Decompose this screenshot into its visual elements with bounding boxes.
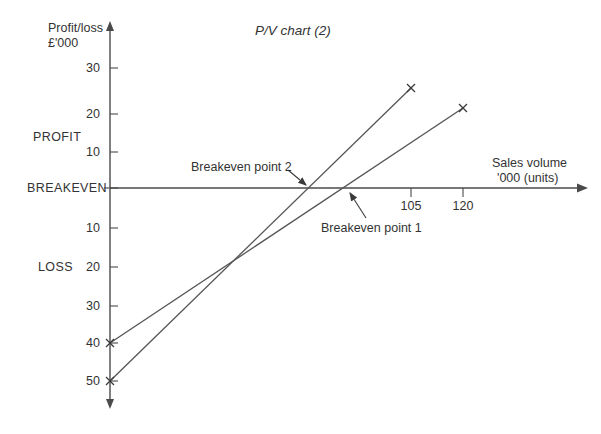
pv-chart-figure: P/V chart (2) Profit/loss £'000 Sales vo… [0, 0, 601, 434]
annotation-leaders [288, 170, 366, 218]
region-label-breakeven: BREAKEVEN [27, 181, 107, 195]
y-tick-label-minus-40: 40 [60, 336, 100, 350]
y-tick-label-10: 10 [60, 145, 100, 159]
y-tick-label-minus-10: 10 [60, 221, 100, 235]
x-axis-title-line2: '000 (units) [497, 171, 558, 185]
y-axis-title-line2: £'000 [48, 36, 78, 50]
y-tick-label-20: 20 [60, 107, 100, 121]
chart-title: P/V chart (2) [255, 24, 331, 38]
y-axis [106, 21, 114, 409]
region-label-loss: LOSS [38, 260, 73, 274]
annotation-breakeven-point-2: Breakeven point 2 [191, 160, 292, 174]
y-tick-label-minus-30: 30 [60, 299, 100, 313]
x-axis-title-line1: Sales volume [492, 156, 567, 170]
annotation-breakeven-point-1: Breakeven point 1 [321, 221, 422, 235]
region-label-profit: PROFIT [33, 130, 81, 144]
y-axis-arrow-down [106, 399, 114, 409]
y-tick-label-30: 30 [60, 61, 100, 75]
leader-breakeven-point-1 [350, 193, 366, 218]
x-axis-ticks [411, 188, 463, 197]
y-axis-title-line1: Profit/loss [48, 21, 103, 35]
y-axis-ticks [104, 68, 118, 381]
x-tick-label-105: 105 [391, 199, 431, 213]
x-tick-label-120: 120 [443, 199, 483, 213]
y-axis-arrow-up [106, 21, 114, 31]
x-axis-arrow-right [577, 184, 588, 193]
y-tick-label-minus-50: 50 [60, 374, 100, 388]
